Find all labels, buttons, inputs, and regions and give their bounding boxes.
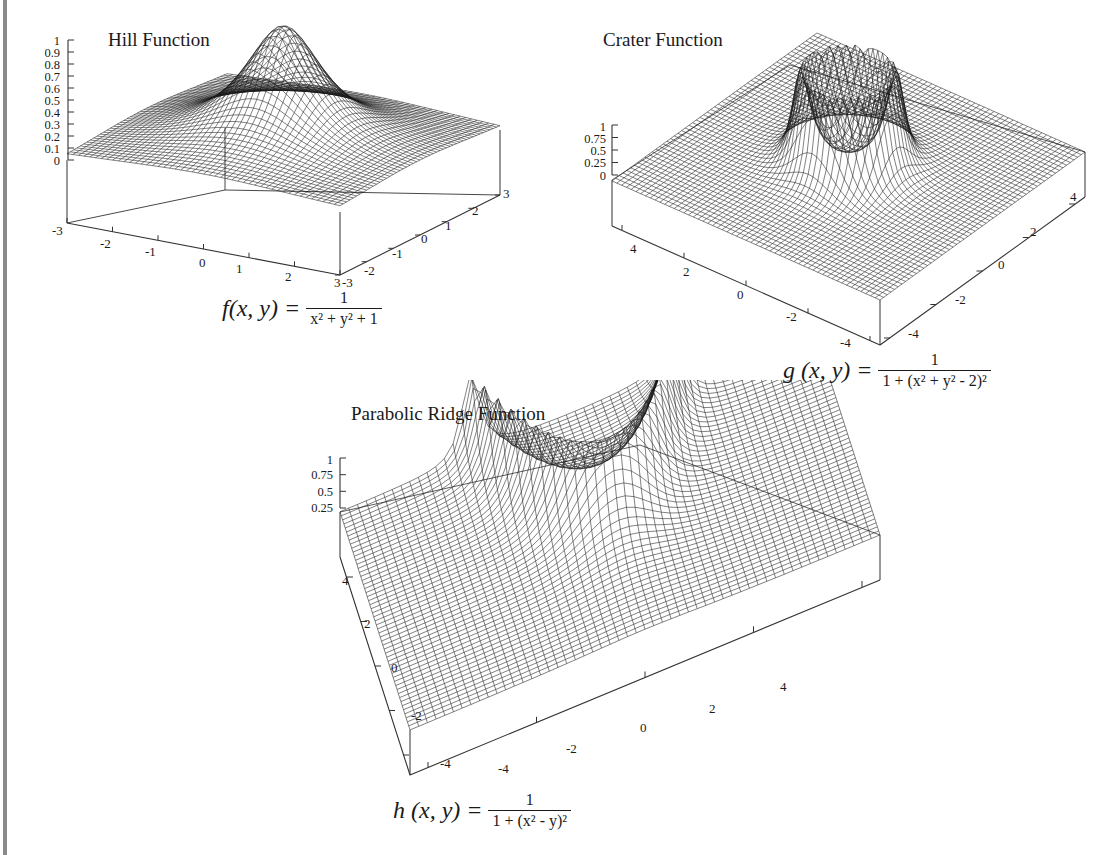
- x-tick: 4: [780, 680, 787, 693]
- y-tick: 2: [364, 617, 371, 630]
- crater-surface-mesh: [0, 0, 1110, 400]
- z-tick: 1: [299, 454, 333, 467]
- formula-numerator: 1: [927, 352, 943, 370]
- x-tick: -2: [566, 742, 577, 755]
- x-tick: 2: [683, 265, 690, 278]
- x-tick: 4: [630, 242, 637, 255]
- formula-denominator: 1 + (x² - y)²: [488, 810, 571, 830]
- ridge-formula: h (x, y) = 1 1 + (x² - y)²: [393, 792, 571, 829]
- y-tick: -4: [440, 757, 451, 770]
- crater-title: Crater Function: [603, 29, 723, 51]
- z-tick: 0.75: [299, 469, 333, 482]
- x-tick: -2: [786, 310, 797, 323]
- crater-function-plot: Crater Function 1 0.75 0.5 0.25 0 4 2 0 …: [0, 0, 1110, 400]
- parabolic-ridge-function-plot: Parabolic Ridge Function 1 0.75 0.5 0.25…: [0, 380, 1110, 855]
- x-tick: -4: [498, 762, 509, 775]
- y-tick: -2: [411, 709, 422, 722]
- y-tick: 0: [998, 258, 1005, 271]
- formula-numerator: 1: [522, 792, 538, 810]
- z-tick: 0.5: [299, 486, 333, 499]
- x-tick: 0: [640, 721, 647, 734]
- y-tick: 2: [1030, 225, 1037, 238]
- formula-lhs: h (x, y) =: [393, 797, 482, 824]
- formula-fraction: 1 1 + (x² - y)²: [488, 792, 571, 829]
- z-tick: 0.25: [572, 157, 606, 170]
- y-tick: 0: [391, 661, 398, 674]
- x-tick: 2: [709, 702, 716, 715]
- x-tick: -4: [840, 336, 851, 349]
- y-tick: 4: [1070, 190, 1077, 203]
- z-tick: 0.25: [299, 502, 333, 515]
- ridge-title: Parabolic Ridge Function: [351, 403, 545, 425]
- x-tick: 0: [737, 288, 744, 301]
- z-tick: 0: [572, 170, 606, 183]
- ridge-surface-mesh: [0, 380, 1110, 855]
- y-tick: -4: [908, 327, 919, 340]
- y-tick: 4: [342, 574, 349, 587]
- y-tick: -2: [955, 293, 966, 306]
